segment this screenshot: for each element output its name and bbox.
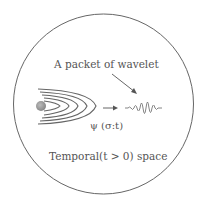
pointer-arrow-icon bbox=[112, 74, 137, 94]
psi-label: ψ (σ:t) bbox=[90, 120, 123, 131]
diagram-canvas: A packet of wavelet bbox=[0, 0, 209, 207]
packet-label: A packet of wavelet bbox=[53, 58, 159, 70]
propagation-arrow-icon bbox=[103, 106, 118, 111]
temporal-space-label: Temporal(t > 0) space bbox=[49, 150, 167, 162]
wavelet-packet-icon bbox=[125, 102, 162, 114]
wave-source-icon bbox=[36, 89, 96, 124]
